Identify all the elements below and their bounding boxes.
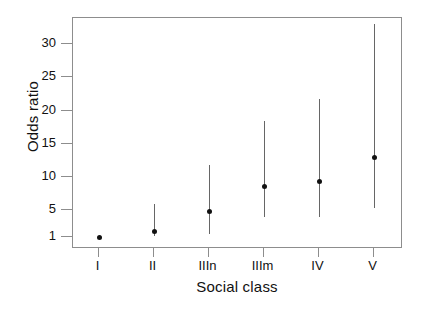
x-tick-IIIn bbox=[208, 248, 209, 257]
y-tick-label-20: 20 bbox=[0, 103, 56, 116]
y-tick-30 bbox=[61, 43, 72, 44]
data-marks-layer bbox=[73, 18, 401, 247]
y-tick-25 bbox=[61, 76, 72, 77]
confidence-interval-IIIn bbox=[209, 165, 210, 234]
y-tick-label-15: 15 bbox=[0, 136, 56, 149]
y-tick-20 bbox=[61, 110, 72, 111]
odds-ratio-chart: Odds ratio Social class 151015202530 III… bbox=[0, 0, 424, 311]
y-tick-label-30: 30 bbox=[0, 36, 56, 49]
data-point-IIIn bbox=[207, 209, 212, 214]
x-tick-I bbox=[98, 248, 99, 257]
data-point-IV bbox=[317, 179, 322, 184]
data-point-I bbox=[97, 235, 102, 240]
y-tick-label-10: 10 bbox=[0, 169, 56, 182]
x-tick-V bbox=[373, 248, 374, 257]
plot-area bbox=[72, 17, 402, 248]
y-tick-1 bbox=[61, 236, 72, 237]
y-tick-label-25: 25 bbox=[0, 69, 56, 82]
x-tick-IIIm bbox=[263, 248, 264, 257]
y-tick-10 bbox=[61, 176, 72, 177]
data-point-II bbox=[152, 229, 157, 234]
y-tick-label-1: 1 bbox=[0, 229, 56, 242]
y-tick-label-5: 5 bbox=[0, 202, 56, 215]
x-tick-label-V: V bbox=[338, 259, 408, 272]
y-tick-15 bbox=[61, 143, 72, 144]
y-tick-5 bbox=[61, 209, 72, 210]
x-axis-title: Social class bbox=[72, 278, 402, 295]
x-tick-II bbox=[153, 248, 154, 257]
x-tick-IV bbox=[318, 248, 319, 257]
confidence-interval-IIIm bbox=[264, 121, 265, 218]
confidence-interval-V bbox=[374, 24, 375, 208]
data-point-V bbox=[372, 155, 377, 160]
confidence-interval-IV bbox=[319, 99, 320, 217]
data-point-IIIm bbox=[262, 184, 267, 189]
